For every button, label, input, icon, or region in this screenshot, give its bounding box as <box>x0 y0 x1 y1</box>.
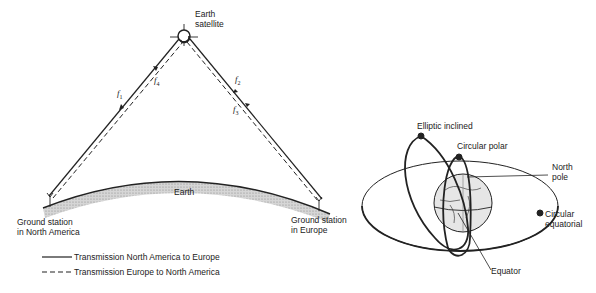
f2-label: f2 <box>235 74 241 86</box>
f1-label: f1 <box>117 88 123 100</box>
uplink-na <box>49 39 183 198</box>
station-eu-line1: Ground station <box>291 215 347 225</box>
satellite-label: Earth satellite <box>195 9 224 29</box>
station-na-line1: Ground station <box>17 217 80 227</box>
f2-sub: 2 <box>238 80 241 86</box>
north-pole-line1: North <box>552 162 573 172</box>
station-na-label: Ground station in North America <box>17 217 80 237</box>
station-na-line2: in North America <box>17 227 80 237</box>
station-eu-label: Ground station in Europe <box>291 215 347 235</box>
legend-dashed-label: Transmission Europe to North America <box>74 267 220 277</box>
f4-label: f4 <box>154 75 160 87</box>
downlink-eu <box>187 39 322 201</box>
satellite-label-line2: satellite <box>195 19 224 29</box>
orbit-diagram <box>362 133 558 270</box>
satellite-label-line1: Earth <box>195 9 224 19</box>
circular-equatorial-line2: equatorial <box>545 219 582 229</box>
earth-label: Earth <box>174 187 194 197</box>
elliptic-inclined-label: Elliptic inclined <box>417 121 473 131</box>
north-pole-line2: pole <box>552 172 573 182</box>
station-eu-line2: in Europe <box>291 225 347 235</box>
circular-equatorial-line1: Circular <box>545 209 582 219</box>
legend-solid-label: Transmission North America to Europe <box>74 252 220 262</box>
equator-label: Equator <box>491 266 521 276</box>
north-pole-label: North pole <box>552 162 573 182</box>
f3-label: f3 <box>233 104 239 116</box>
circular-polar-label: Circular polar <box>457 141 508 151</box>
f4-sub: 4 <box>157 81 160 87</box>
f1-sub: 1 <box>120 94 123 100</box>
circular-equatorial-label: Circular equatorial <box>545 209 582 229</box>
f3-sub: 3 <box>236 110 239 116</box>
